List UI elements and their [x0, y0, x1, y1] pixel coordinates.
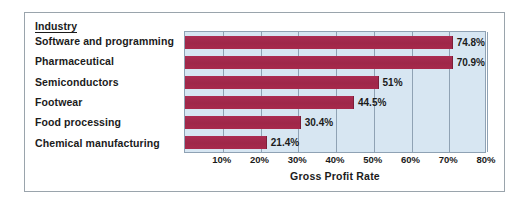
x-axis-title: Gross Profit Rate [184, 170, 486, 182]
x-tick-label: 50% [363, 154, 382, 165]
x-tick-label: 40% [325, 154, 344, 165]
bar-series: 74.8% 70.9% 51% 44.5% 30.4% 21.4% [185, 32, 485, 152]
category-label: Footwear [25, 96, 184, 108]
bar [185, 116, 301, 129]
bar [185, 56, 453, 69]
bar-row: 74.8% [185, 36, 485, 49]
bar-row: 21.4% [185, 136, 485, 149]
category-label: Pharmaceutical [25, 55, 184, 67]
x-axis-tick-labels: 10%20%30%40%50%60%70%80% [184, 154, 486, 168]
category-label: Chemical manufacturing [25, 137, 184, 149]
x-tick-label: 10% [212, 154, 231, 165]
gridline [487, 32, 488, 152]
chart-figure: Industry Software and programming Pharma… [24, 12, 505, 192]
bar [185, 36, 453, 49]
bar-value-label: 30.4% [305, 117, 333, 128]
bar-row: 70.9% [185, 56, 485, 69]
bar-value-label: 74.8% [457, 37, 485, 48]
category-label: Semiconductors [25, 76, 184, 88]
bar-row: 51% [185, 76, 485, 89]
bar-row: 44.5% [185, 96, 485, 109]
bar-value-label: 70.9% [457, 57, 485, 68]
bar-row: 30.4% [185, 116, 485, 129]
bar-value-label: 44.5% [358, 97, 386, 108]
x-tick-label: 60% [401, 154, 420, 165]
category-label-column: Software and programming Pharmaceutical … [25, 31, 184, 153]
bar [185, 136, 267, 149]
bar-value-label: 21.4% [271, 137, 299, 148]
x-tick-label: 70% [439, 154, 458, 165]
category-label: Food processing [25, 116, 184, 128]
category-label: Software and programming [25, 35, 184, 47]
x-tick-label: 80% [476, 154, 495, 165]
plot-area: 74.8% 70.9% 51% 44.5% 30.4% 21.4% [184, 31, 486, 153]
bar [185, 96, 354, 109]
bar-value-label: 51% [383, 77, 403, 88]
x-tick-label: 30% [288, 154, 307, 165]
x-tick-label: 20% [250, 154, 269, 165]
bar [185, 76, 379, 89]
